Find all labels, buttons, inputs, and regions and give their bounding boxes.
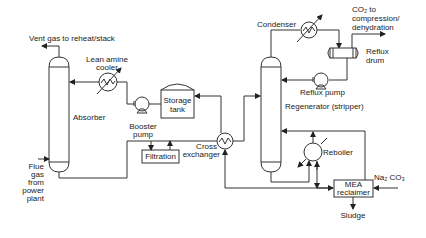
overhead-line — [271, 30, 300, 57]
vent-gas-label: Vent gas to reheat/stack — [29, 34, 115, 43]
booster-pump — [134, 97, 149, 113]
storage-tank-label-2: tank — [161, 105, 194, 114]
reflux-drum — [328, 48, 358, 58]
regenerator-to-reboiler-line — [271, 161, 309, 182]
co2-label-3: dehydration — [352, 23, 394, 32]
booster-pump-label-2: pump — [123, 130, 163, 139]
co2-label-2: compression/ — [352, 14, 400, 23]
cross-exchanger-label-2: exchanger — [170, 150, 220, 159]
condenser — [297, 15, 322, 42]
na2co3-label: Na₂ CO₃ — [374, 173, 405, 182]
regenerator-label: Regenerator (stripper) — [285, 102, 364, 111]
lean-amine-cooler-label-2: cooler — [82, 63, 132, 72]
drum-to-pump-line — [329, 58, 347, 80]
cross-to-tank-line — [195, 96, 221, 133]
cross-exchanger — [217, 133, 233, 149]
reflux-drum-label-1: Reflux — [366, 47, 389, 56]
mea-reclaimer-label-2: reclaimer — [334, 188, 373, 197]
regenerator-column — [261, 57, 281, 172]
cross-to-regenerator-line — [233, 96, 260, 141]
sludge-label: Sludge — [333, 211, 373, 220]
flue-gas-label-5: plant — [14, 194, 44, 203]
absorber-column — [49, 57, 69, 172]
storage-tank-label-1: Storage — [161, 96, 194, 105]
pump-to-cooler-line — [117, 82, 134, 104]
absorber-label: Absorber — [73, 113, 105, 122]
co2-label-1: CO₂ to — [352, 5, 376, 14]
reflux-drum-label-2: drum — [366, 56, 384, 65]
reflux-pump-label: Reflux pump — [300, 88, 345, 97]
reboiler-label: Reboiler — [323, 148, 353, 157]
condenser-label: Condenser — [257, 20, 296, 29]
reflux-pump — [313, 73, 328, 89]
co2-out-line — [352, 34, 385, 48]
vent-gas-line — [42, 46, 59, 57]
condenser-to-drum-line — [317, 30, 339, 48]
